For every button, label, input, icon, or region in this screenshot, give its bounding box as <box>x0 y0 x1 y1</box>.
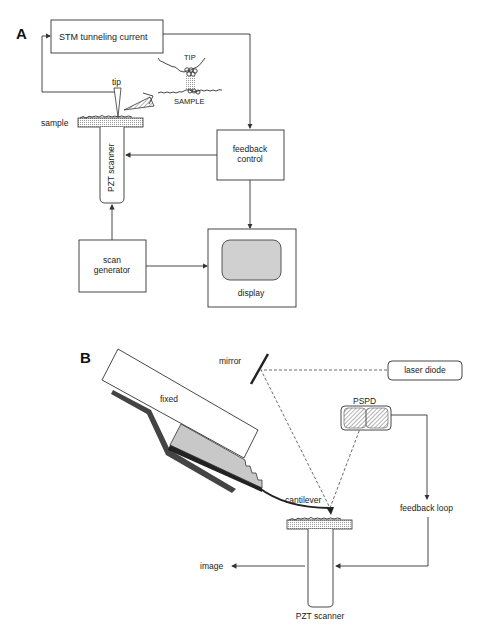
sample-plate <box>78 118 143 127</box>
generator-label: generator <box>94 265 131 275</box>
stm-box-label: STM tunneling current <box>59 32 148 42</box>
afm-stm-diagram: A STM tunneling current tip sample PZT s… <box>0 0 477 627</box>
laser-diode-box: laser diode <box>388 361 462 380</box>
feedback-label: feedback <box>233 144 268 154</box>
tip-sample-inset: TIP SAMPLE <box>158 53 222 106</box>
stm-to-feedback-arrow <box>163 34 250 128</box>
pzt-scanner-a-label: PZT scanner <box>106 143 116 192</box>
laser-diode-label: laser diode <box>404 365 446 375</box>
control-label: control <box>237 154 263 164</box>
mirror-label: mirror <box>219 356 241 366</box>
sample-plate-b <box>287 520 352 529</box>
pspd-label: PSPD <box>353 396 376 406</box>
pspd-to-feedback-arrow <box>391 415 427 499</box>
laser-beam-path <box>261 370 387 508</box>
cantilever-label: cantilever <box>285 495 322 505</box>
sample-label: sample <box>41 118 69 128</box>
display-box: display <box>208 229 296 307</box>
panel-a-label: A <box>16 25 27 42</box>
pzt-scanner-b-label: PZT scanner <box>296 611 345 621</box>
stm-tunneling-current-box: STM tunneling current <box>51 20 163 53</box>
inset-sample-label: SAMPLE <box>174 97 204 106</box>
display-screen-icon <box>222 240 281 280</box>
pzt-scanner-tube-a: PZT scanner <box>100 127 124 203</box>
display-label: display <box>238 288 265 298</box>
feedback-control-box: feedback control <box>217 130 284 180</box>
inset-tip-label: TIP <box>184 53 196 62</box>
scan-label: scan <box>103 255 121 265</box>
fixed-label: fixed <box>160 394 178 404</box>
feedback-loop-label: feedback loop <box>400 503 453 513</box>
panel-b-label: B <box>80 349 91 366</box>
pspd-detector: PSPD <box>341 396 391 430</box>
pzt-scanner-tube-b <box>308 529 333 607</box>
stm-tip-icon <box>114 88 121 117</box>
tip-label: tip <box>112 77 121 87</box>
image-label: image <box>200 561 223 571</box>
scan-generator-box: scan generator <box>79 240 146 292</box>
